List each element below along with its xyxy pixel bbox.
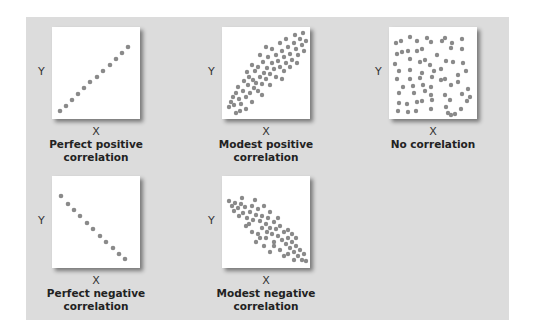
scatter-area bbox=[52, 27, 140, 119]
y-axis-label: Y bbox=[208, 65, 215, 78]
plot-modest-negative: Y X Modest negative correlation bbox=[222, 176, 310, 268]
plot-perfect-positive: Y X Perfect positive correlation bbox=[52, 27, 140, 119]
y-axis-label: Y bbox=[208, 214, 215, 227]
scatter-dots bbox=[222, 27, 310, 119]
plot-caption: Perfect negative correlation bbox=[22, 287, 170, 313]
scatter-area bbox=[222, 27, 310, 119]
scatter-dots bbox=[389, 27, 477, 119]
x-axis-label: X bbox=[389, 125, 477, 138]
plot-caption: Perfect positive correlation bbox=[22, 138, 170, 164]
scatter-area bbox=[389, 27, 477, 119]
y-axis-label: Y bbox=[38, 65, 45, 78]
x-axis-label: X bbox=[52, 274, 140, 287]
scatter-dots bbox=[222, 176, 310, 268]
y-axis-label: Y bbox=[38, 214, 45, 227]
scatter-dots bbox=[52, 27, 140, 119]
plot-caption: Modest positive correlation bbox=[192, 138, 340, 164]
plot-caption: No correlation bbox=[359, 138, 507, 151]
plot-no-correlation: Y X No correlation bbox=[389, 27, 477, 119]
x-axis-label: X bbox=[52, 125, 140, 138]
y-axis-label: Y bbox=[375, 65, 382, 78]
plot-caption: Modest negative correlation bbox=[192, 287, 340, 313]
x-axis-label: X bbox=[222, 125, 310, 138]
plot-perfect-negative: Y X Perfect negative correlation bbox=[52, 176, 140, 268]
scatter-dots bbox=[52, 176, 140, 268]
plot-modest-positive: Y X Modest positive correlation bbox=[222, 27, 310, 119]
scatter-area bbox=[52, 176, 140, 268]
scatter-area bbox=[222, 176, 310, 268]
x-axis-label: X bbox=[222, 274, 310, 287]
